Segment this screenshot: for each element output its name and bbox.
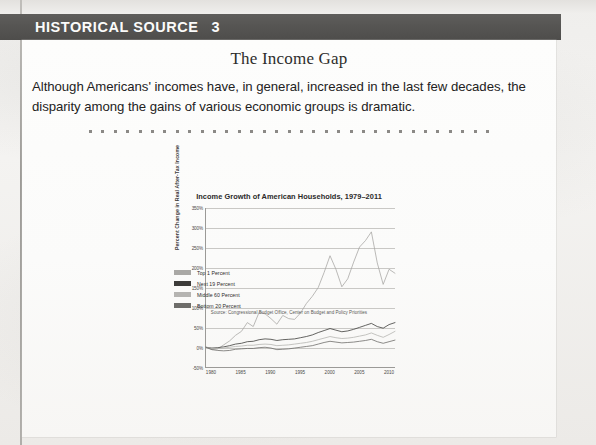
series-line — [206, 339, 395, 351]
divider-dot — [300, 130, 303, 133]
divider-dot — [362, 130, 365, 133]
divider-dot — [412, 130, 415, 133]
page-title: The Income Gap — [22, 49, 556, 69]
divider-dot — [151, 130, 154, 133]
y-tick-label: 300% — [192, 226, 203, 231]
y-tick-label: -50% — [193, 366, 203, 371]
dotted-divider — [89, 129, 489, 134]
y-tick-label: 250% — [192, 246, 203, 251]
divider-dot — [263, 130, 266, 133]
divider-dot — [275, 130, 278, 133]
legend-label: Top 1 Percent — [197, 270, 230, 276]
divider-dot — [387, 130, 390, 133]
divider-dot — [449, 130, 452, 133]
divider-dot — [176, 130, 179, 133]
intro-paragraph: Although Americans' incomes have, in gen… — [32, 77, 544, 116]
banner-title: HISTORICAL SOURCE — [35, 19, 199, 35]
y-tick-label: 350% — [192, 206, 203, 211]
chart-source-note: Source: Congressional Budget Office, Cen… — [22, 310, 556, 315]
historical-source-banner: HISTORICAL SOURCE 3 — [0, 14, 561, 40]
divider-dot — [436, 130, 439, 133]
divider-dot — [201, 130, 204, 133]
y-tick-label: 0% — [197, 346, 203, 351]
legend-swatch — [174, 292, 191, 297]
banner-number: 3 — [212, 19, 220, 35]
divider-dot — [399, 130, 402, 133]
divider-dot — [213, 130, 216, 133]
x-axis-ticks: 1980198519901995200020052010 — [205, 370, 395, 380]
divider-dot — [225, 130, 228, 133]
legend-swatch — [174, 303, 191, 308]
chart-legend: Top 1 PercentNext 19 PercentMiddle 60 Pe… — [174, 268, 404, 312]
source-content-card: The Income Gap Although Americans' incom… — [22, 40, 556, 437]
divider-dot — [250, 130, 253, 133]
divider-dot — [126, 130, 129, 133]
divider-dot — [486, 130, 489, 133]
legend-swatch — [174, 270, 191, 275]
divider-dot — [474, 130, 477, 133]
divider-dot — [374, 130, 377, 133]
x-tick-label: 1990 — [265, 370, 275, 375]
divider-dot — [337, 130, 340, 133]
series-line — [206, 323, 395, 348]
x-tick-label: 2005 — [354, 370, 364, 375]
divider-dot — [163, 130, 166, 133]
legend-item: Next 19 Percent — [174, 279, 404, 288]
legend-item: Top 1 Percent — [174, 268, 404, 277]
legend-swatch — [174, 281, 191, 286]
y-tick-label: 50% — [194, 326, 203, 331]
divider-dot — [325, 130, 328, 133]
divider-dot — [89, 130, 92, 133]
divider-dot — [114, 130, 117, 133]
divider-dot — [350, 130, 353, 133]
divider-dot — [424, 130, 427, 133]
legend-item: Middle 60 Percent — [174, 290, 404, 299]
banner-content: HISTORICAL SOURCE 3 — [35, 19, 220, 35]
x-tick-label: 2010 — [384, 370, 394, 375]
legend-label: Bottom 20 Percent — [197, 303, 241, 309]
legend-label: Next 19 Percent — [197, 281, 235, 287]
y-axis-label: Percent Change in Real After-Tax Income — [174, 145, 180, 250]
divider-dot — [461, 130, 464, 133]
x-tick-label: 1995 — [295, 370, 305, 375]
page-top-strip — [0, 0, 596, 14]
divider-dot — [312, 130, 315, 133]
legend-item: Bottom 20 Percent — [174, 301, 404, 310]
divider-dot — [101, 130, 104, 133]
x-tick-label: 1985 — [236, 370, 246, 375]
divider-dot — [139, 130, 142, 133]
legend-label: Middle 60 Percent — [197, 292, 240, 298]
chart-title: Income Growth of American Households, 19… — [22, 192, 556, 201]
x-tick-label: 1980 — [206, 370, 216, 375]
x-tick-label: 2000 — [325, 370, 335, 375]
divider-dot — [188, 130, 191, 133]
divider-dot — [288, 130, 291, 133]
divider-dot — [238, 130, 241, 133]
